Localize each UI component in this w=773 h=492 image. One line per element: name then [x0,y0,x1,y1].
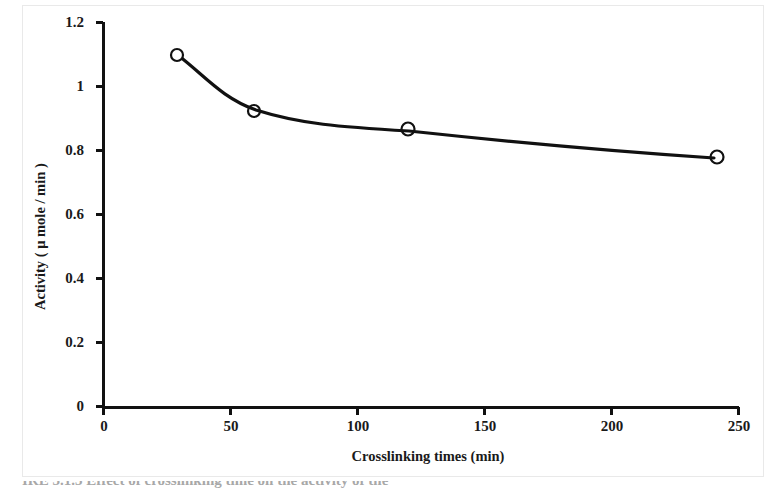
y-axis-title: Activity ( μ mole / min ) [32,163,49,310]
y-tick-label-0-2: 0.2 [34,335,84,350]
data-markers [171,49,724,164]
x-tick-label-200: 200 [582,419,642,434]
chart-plot-area: 1.2 1 0.8 0.6 0.4 0.2 0 0 50 100 150 200… [0,0,773,492]
x-tick-label-150: 150 [455,419,515,434]
data-point-marker [402,123,415,136]
y-tick-label-0-8: 0.8 [34,143,84,158]
figure-caption-clipped: IRE 3.1.3 Effect of crosslinking time on… [22,481,764,492]
x-tick-label-100: 100 [328,419,388,434]
y-tick-label-1: 1 [34,79,84,94]
data-point-marker [171,49,183,61]
figure-caption-text: IRE 3.1.3 Effect of crosslinking time on… [22,481,388,489]
y-tick-label-0: 0 [34,399,84,414]
x-tick-label-250: 250 [709,419,769,434]
x-axis-title: Crosslinking times (min) [278,448,578,465]
x-tick-label-50: 50 [201,419,261,434]
figure-page: 1.2 1 0.8 0.6 0.4 0.2 0 0 50 100 150 200… [0,0,773,492]
y-tick-label-1-2: 1.2 [34,15,84,30]
y-axis-ticks [96,23,103,407]
x-tick-label-0: 0 [74,419,134,434]
